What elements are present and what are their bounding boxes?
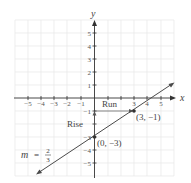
slope-numerator: 2 bbox=[46, 147, 50, 155]
y-axis-label: y bbox=[90, 8, 96, 19]
point-0-neg3 bbox=[93, 135, 97, 139]
slope-denominator: 3 bbox=[46, 156, 50, 164]
y-tick-label: 1 bbox=[88, 82, 92, 90]
y-tick-labels: 5 4 3 2 1 −1 −3 −4 −5 bbox=[84, 30, 92, 168]
x-tick-label: 3 bbox=[132, 100, 136, 108]
y-tick-label: 4 bbox=[88, 43, 92, 51]
slope-label: m = 2 3 bbox=[21, 147, 51, 164]
x-axis-arrow-icon bbox=[170, 96, 176, 101]
y-tick-label: −5 bbox=[84, 160, 92, 168]
rise-arrow-icon bbox=[93, 111, 97, 116]
point-label-3-neg1: (3, −1) bbox=[136, 112, 161, 122]
run-label: Run bbox=[102, 99, 118, 109]
slope-equals: = bbox=[34, 150, 39, 160]
x-tick-label: −5 bbox=[24, 100, 32, 108]
x-tick-label: −4 bbox=[37, 100, 45, 108]
y-tick-label: −4 bbox=[84, 147, 92, 155]
line-series bbox=[38, 84, 172, 173]
y-tick-label: 5 bbox=[88, 30, 92, 38]
x-tick-label: −3 bbox=[50, 100, 58, 108]
y-tick-label: −1 bbox=[84, 108, 92, 116]
y-tick-label: 2 bbox=[88, 69, 92, 77]
x-tick-label: −2 bbox=[63, 100, 71, 108]
y-tick-label: 3 bbox=[88, 56, 92, 64]
chart: −5 −4 −3 −2 −1 3 4 5 5 4 3 2 1 −1 −3 −4 … bbox=[0, 0, 191, 183]
slope-m: m bbox=[21, 149, 28, 160]
rise-label: Rise bbox=[67, 119, 83, 129]
y-axis-arrow-icon bbox=[92, 20, 97, 26]
x-axis-label: x bbox=[179, 92, 185, 103]
x-tick-label: 5 bbox=[159, 100, 163, 108]
point-label-0-neg3: (0, −3) bbox=[97, 138, 122, 148]
